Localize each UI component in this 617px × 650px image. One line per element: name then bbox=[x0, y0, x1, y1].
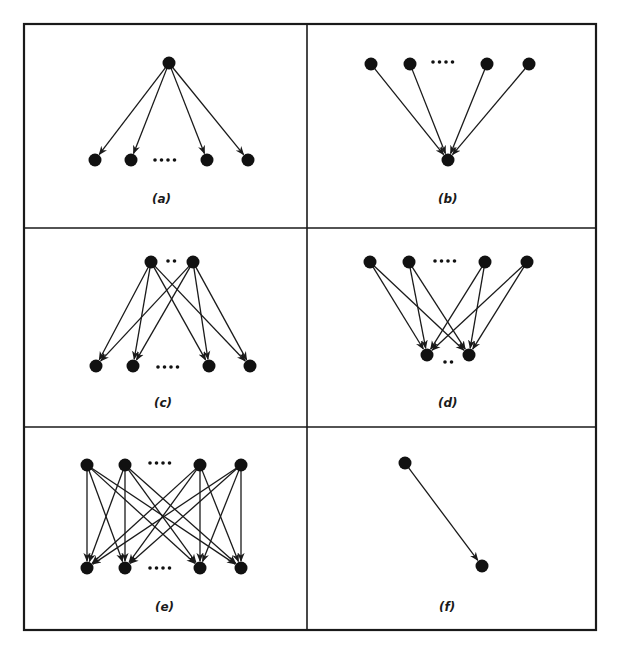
ellipsis-dot bbox=[168, 566, 172, 570]
ellipsis-dot bbox=[166, 259, 170, 263]
edge-arrow bbox=[453, 67, 527, 155]
ellipsis-dot bbox=[155, 461, 159, 465]
ellipsis-dot bbox=[169, 365, 173, 369]
graph-node bbox=[523, 58, 536, 71]
edge-arrow bbox=[410, 266, 426, 348]
graph-node bbox=[521, 256, 534, 269]
graph-node bbox=[81, 562, 94, 575]
edge-arrow bbox=[201, 469, 238, 562]
diagram-figure: (a) (b) (c) (d) (e) (f) bbox=[0, 0, 617, 650]
ellipsis-dot bbox=[176, 365, 180, 369]
graph-node bbox=[479, 256, 492, 269]
figure-frame bbox=[24, 24, 596, 630]
ellipsis-dot bbox=[173, 158, 177, 162]
ellipsis-dot bbox=[440, 259, 444, 263]
edge-arrow bbox=[171, 66, 243, 155]
edge-arrow bbox=[432, 265, 524, 351]
panel-label-e: (e) bbox=[155, 600, 174, 614]
ellipsis-dot bbox=[173, 259, 177, 263]
ellipsis-dot bbox=[446, 259, 450, 263]
panel-label-c: (c) bbox=[154, 396, 172, 410]
edge-arrow bbox=[93, 467, 238, 564]
ellipsis-dot bbox=[453, 259, 457, 263]
edge-arrow bbox=[372, 265, 423, 349]
edge-arrow bbox=[373, 67, 443, 154]
edge-arrow bbox=[134, 67, 168, 154]
ellipsis-dot bbox=[163, 365, 167, 369]
edge-arrow bbox=[195, 265, 247, 359]
ellipsis-dot bbox=[168, 461, 172, 465]
ellipsis-dot bbox=[155, 566, 159, 570]
ellipsis-dot bbox=[161, 461, 165, 465]
edge-arrow bbox=[99, 66, 166, 154]
graph-node bbox=[476, 560, 489, 573]
panel-label-a: (a) bbox=[152, 192, 171, 206]
ellipsis-dot bbox=[443, 360, 447, 364]
graph-node bbox=[481, 58, 494, 71]
graph-node bbox=[127, 360, 140, 373]
ellipsis-dot bbox=[444, 60, 448, 64]
graph-node bbox=[89, 154, 102, 167]
edge-arrow bbox=[407, 466, 477, 560]
ellipsis-dot bbox=[148, 566, 152, 570]
graph-node bbox=[364, 256, 377, 269]
ellipsis-dot bbox=[166, 158, 170, 162]
graph-node bbox=[187, 256, 200, 269]
panel-c: (c) bbox=[90, 256, 257, 411]
graph-node bbox=[163, 57, 176, 70]
panel-label-b: (b) bbox=[438, 192, 458, 206]
ellipsis-dot bbox=[161, 566, 165, 570]
panel-f: (f) bbox=[399, 457, 489, 615]
edge-arrow bbox=[170, 67, 204, 154]
edge-arrow bbox=[470, 266, 484, 348]
panel-label-d: (d) bbox=[438, 396, 458, 410]
graph-node bbox=[463, 349, 476, 362]
edge-arrow bbox=[473, 265, 525, 349]
ellipsis-dot bbox=[438, 60, 442, 64]
graph-node bbox=[404, 58, 417, 71]
graph-node bbox=[119, 459, 132, 472]
graph-node bbox=[194, 562, 207, 575]
edge-arrow bbox=[154, 265, 245, 361]
ellipsis-dot bbox=[148, 461, 152, 465]
ellipsis-dot bbox=[156, 365, 160, 369]
edge-arrow bbox=[451, 68, 486, 154]
ellipsis-dot bbox=[433, 259, 437, 263]
graph-node bbox=[90, 360, 103, 373]
edge-arrow bbox=[411, 68, 445, 154]
graph-node bbox=[203, 360, 216, 373]
edge-arrow bbox=[129, 468, 198, 562]
graph-node bbox=[119, 562, 132, 575]
graph-node bbox=[244, 360, 257, 373]
panel-d: (d) bbox=[364, 256, 534, 411]
panel-e: (e) bbox=[81, 459, 248, 615]
graph-node bbox=[125, 154, 138, 167]
graph-node bbox=[201, 154, 214, 167]
ellipsis-dot bbox=[153, 158, 157, 162]
panel-label-f: (f) bbox=[439, 600, 455, 614]
graph-node bbox=[81, 459, 94, 472]
graph-node bbox=[235, 459, 248, 472]
edge-arrow bbox=[194, 266, 208, 359]
graph-node bbox=[242, 154, 255, 167]
graph-node bbox=[235, 562, 248, 575]
ellipsis-dot bbox=[431, 60, 435, 64]
graph-node bbox=[403, 256, 416, 269]
graph-node bbox=[194, 459, 207, 472]
edge-arrow bbox=[153, 265, 206, 359]
graph-node bbox=[442, 154, 455, 167]
edge-arrow bbox=[127, 468, 196, 562]
edge-arrow bbox=[101, 265, 191, 361]
ellipsis-dot bbox=[451, 60, 455, 64]
graph-node bbox=[365, 58, 378, 71]
edge-arrow bbox=[130, 468, 238, 564]
panel-b: (b) bbox=[365, 58, 536, 207]
edge-arrow bbox=[136, 265, 191, 360]
graph-node bbox=[421, 349, 434, 362]
graph-node bbox=[145, 256, 158, 269]
ellipsis-dot bbox=[160, 158, 164, 162]
ellipsis-dot bbox=[450, 360, 454, 364]
panel-a: (a) bbox=[89, 57, 255, 207]
graph-node bbox=[399, 457, 412, 470]
